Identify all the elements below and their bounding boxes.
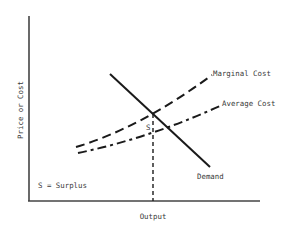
economics-diagram: Marginal Cost Average Cost Demand S S = …: [0, 0, 296, 240]
demand-label: Demand: [197, 172, 224, 181]
surplus-marker: S: [146, 123, 150, 132]
y-axis-label: Price or Cost: [16, 81, 25, 139]
surplus-legend: S = Surplus: [38, 181, 87, 190]
x-axis-label: Output: [140, 212, 167, 221]
average-cost-label: Average Cost: [222, 99, 275, 108]
marginal-cost-label: Marginal Cost: [213, 69, 271, 78]
